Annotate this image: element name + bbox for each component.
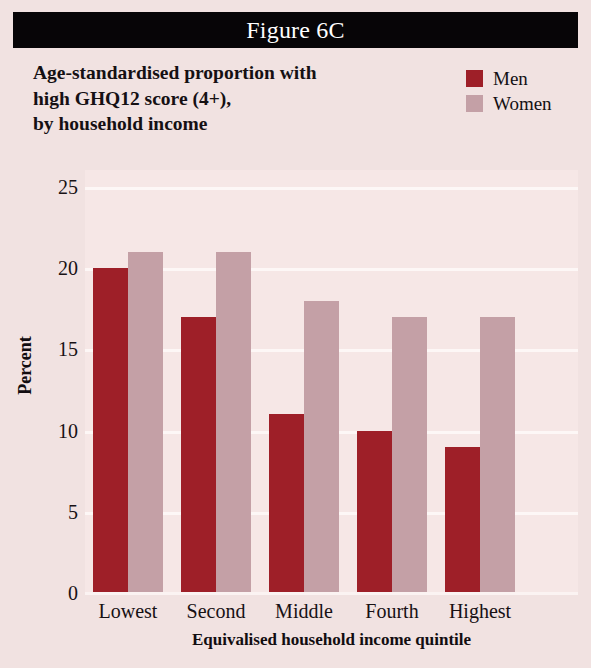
y-tick-label-20: 20 [8,257,78,280]
legend-item-men: Men [466,66,586,91]
bar-women-middle [304,301,339,593]
y-tick-label-5: 5 [8,500,78,523]
y-axis: 0510152025 [0,0,78,668]
legend-item-women: Women [466,91,586,116]
bar-men-fourth [357,431,392,593]
figure-number-label: Figure 6C [246,17,344,44]
bar-men-highest [445,447,480,593]
chart-title-line-1: Age-standardised proportion with [33,60,393,86]
bar-women-second [216,252,251,593]
x-tick-label-highest: Highest [420,600,540,623]
bar-women-highest [480,317,515,593]
bar-men-second [181,317,216,593]
bar-women-fourth [392,317,427,593]
y-tick-label-25: 25 [8,176,78,199]
y-tick-label-10: 10 [8,419,78,442]
chart-title: Age-standardised proportion with high GH… [33,60,393,137]
bar-men-middle [269,414,304,593]
x-axis-title: Equivalised household income quintile [85,630,578,650]
plot-area [85,170,578,594]
figure-banner: Figure 6C [13,12,578,48]
bar-men-lowest [93,268,128,593]
x-axis-baseline [85,592,578,595]
chart-title-line-2: high GHQ12 score (4+), [33,86,393,112]
legend-swatch-women-icon [466,95,483,112]
legend-swatch-men-icon [466,70,483,87]
chart-legend: Men Women [466,66,586,116]
bar-women-lowest [128,252,163,593]
legend-label-women: Women [493,93,552,115]
legend-label-men: Men [493,68,528,90]
chart-title-line-3: by household income [33,111,393,137]
y-axis-title: Percent [15,321,36,411]
gridline-25 [85,187,578,190]
